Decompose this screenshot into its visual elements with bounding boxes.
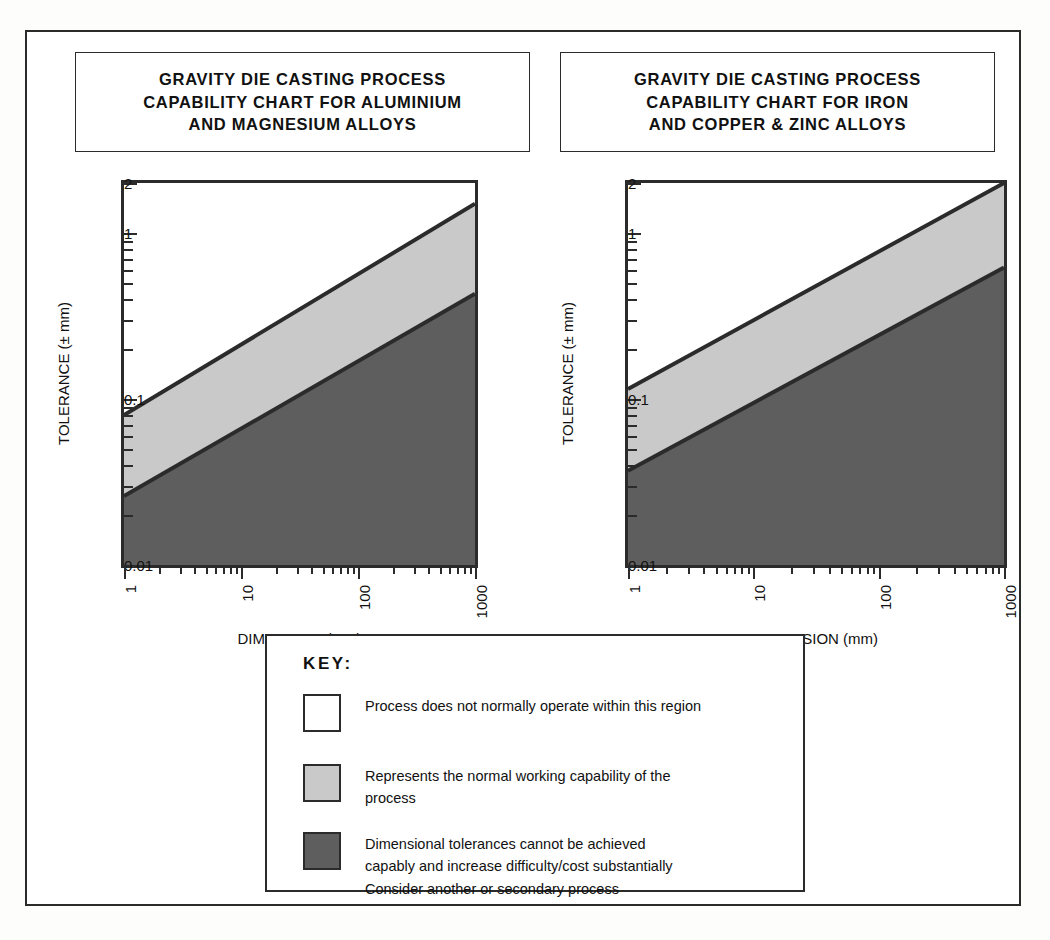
capability-bands-aluminium-magnesium [124, 183, 475, 565]
x-axis-minor-tick [703, 565, 705, 574]
x-axis-minor-tick [716, 565, 718, 574]
key-item-text: Represents the normal working capability… [365, 764, 670, 810]
chart-title-line: GRAVITY DIE CASTING PROCESS [143, 68, 462, 91]
y-axis-minor-tick [628, 249, 637, 251]
x-axis-tick-label: 1000 [1002, 585, 1019, 618]
key-swatch-dark-grey [303, 832, 341, 870]
key-swatch-white [303, 694, 341, 732]
key-text-line: Process does not normally operate within… [365, 695, 701, 717]
x-axis-major-tick [241, 565, 243, 579]
chart-title-box-right: GRAVITY DIE CASTING PROCESS CAPABILITY C… [560, 52, 995, 152]
x-axis-minor-tick [992, 565, 994, 574]
key-item-not-normally-operated: Process does not normally operate within… [303, 694, 701, 732]
y-axis-minor-tick [628, 449, 637, 451]
x-axis-minor-tick [976, 565, 978, 574]
x-axis-minor-tick [859, 565, 861, 574]
x-axis-minor-tick [873, 565, 875, 574]
x-axis-major-tick [1004, 565, 1006, 579]
key-item-normal-working-capability: Represents the normal working capability… [303, 764, 670, 810]
y-axis-minor-tick [124, 486, 133, 488]
y-axis-minor-tick [628, 436, 637, 438]
plot-area-iron-copper-zinc [625, 180, 1007, 568]
x-axis-minor-tick [347, 565, 349, 574]
x-axis-tick-label: 1000 [473, 585, 490, 618]
capability-bands-iron-copper-zinc [628, 183, 1004, 565]
y-axis-title-left: TOLERANCE (± mm) [55, 274, 72, 474]
y-axis-minor-tick [124, 270, 133, 272]
plot-area-aluminium-magnesium [121, 180, 478, 568]
page-root: GRAVITY DIE CASTING PROCESS CAPABILITY C… [0, 0, 1050, 940]
x-axis-minor-tick [791, 565, 793, 574]
x-axis-tick-label: 10 [751, 585, 768, 602]
y-axis-minor-tick [124, 320, 133, 322]
x-axis-minor-tick [457, 565, 459, 574]
x-axis-minor-tick [194, 565, 196, 574]
chart-panel-aluminium-magnesium: 0.010.1121101001000 DIMENSION (mm) TOLER… [25, 160, 525, 620]
chart-title-line: CAPABILITY CHART FOR ALUMINIUM [143, 91, 462, 114]
y-axis-minor-tick [628, 299, 637, 301]
key-text-line: Represents the normal working capability… [365, 765, 670, 787]
x-axis-minor-tick [813, 565, 815, 574]
x-axis-minor-tick [954, 565, 956, 574]
x-axis-minor-tick [414, 565, 416, 574]
x-axis-tick-label: 1 [122, 585, 139, 593]
x-axis-major-tick [124, 565, 126, 579]
x-axis-minor-tick [726, 565, 728, 574]
x-axis-minor-tick [332, 565, 334, 574]
x-axis-minor-tick [159, 565, 161, 574]
x-axis-minor-tick [206, 565, 208, 574]
x-axis-minor-tick [180, 565, 182, 574]
chart-title-line: AND COPPER & ZINC ALLOYS [634, 113, 921, 136]
y-axis-minor-tick [124, 259, 133, 261]
y-axis-minor-tick [628, 270, 637, 272]
x-axis-minor-tick [916, 565, 918, 574]
x-axis-minor-tick [449, 565, 451, 574]
x-axis-minor-tick [311, 565, 313, 574]
x-axis-tick-label: 100 [876, 585, 893, 610]
x-axis-minor-tick [666, 565, 668, 574]
x-axis-minor-tick [734, 565, 736, 574]
x-axis-minor-tick [938, 565, 940, 574]
x-axis-major-tick [753, 565, 755, 579]
chart-title-line: AND MAGNESIUM ALLOYS [143, 113, 462, 136]
key-swatch-light-grey [303, 764, 341, 802]
y-axis-minor-tick [124, 515, 133, 517]
key-legend-box: KEY: Process does not normally operate w… [265, 634, 805, 892]
chart-title-box-left: GRAVITY DIE CASTING PROCESS CAPABILITY C… [75, 52, 530, 152]
y-axis-minor-tick [628, 425, 637, 427]
x-axis-minor-tick [966, 565, 968, 574]
key-text-line: process [365, 787, 670, 809]
x-axis-minor-tick [340, 565, 342, 574]
x-axis-minor-tick [985, 565, 987, 574]
y-axis-minor-tick [124, 449, 133, 451]
y-axis-minor-tick [628, 320, 637, 322]
x-axis-minor-tick [998, 565, 1000, 574]
x-axis-minor-tick [297, 565, 299, 574]
x-axis-minor-tick [236, 565, 238, 574]
x-axis-minor-tick [741, 565, 743, 574]
key-text-line: Consider another or secondary process [365, 878, 673, 900]
y-axis-minor-tick [124, 415, 133, 417]
x-axis-minor-tick [829, 565, 831, 574]
x-axis-minor-tick [748, 565, 750, 574]
x-axis-tick-label: 100 [356, 585, 373, 610]
x-axis-minor-tick [470, 565, 472, 574]
x-axis-minor-tick [464, 565, 466, 574]
y-axis-minor-tick [628, 415, 637, 417]
x-axis-tick-label: 10 [239, 585, 256, 602]
y-axis-minor-tick [124, 465, 133, 467]
x-axis-minor-tick [440, 565, 442, 574]
y-axis-minor-tick [124, 249, 133, 251]
y-axis-minor-tick [628, 486, 637, 488]
x-axis-major-tick [475, 565, 477, 579]
key-item-text: Dimensional tolerances cannot be achieve… [365, 832, 673, 900]
key-item-text: Process does not normally operate within… [365, 694, 701, 717]
x-axis-minor-tick [428, 565, 430, 574]
key-title: KEY: [303, 654, 353, 674]
y-axis-minor-tick [124, 299, 133, 301]
x-axis-tick-label: 1 [626, 585, 643, 593]
x-axis-major-tick [628, 565, 630, 579]
x-axis-minor-tick [323, 565, 325, 574]
x-axis-major-tick [879, 565, 881, 579]
x-axis-minor-tick [353, 565, 355, 574]
